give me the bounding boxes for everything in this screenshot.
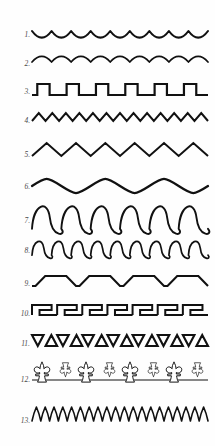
pattern-row-greek-key-meander: 10. [0, 302, 215, 326]
fleur-de-lis-small [104, 363, 115, 377]
row-number-label: 11. [8, 340, 30, 348]
pattern-svg [32, 332, 208, 356]
pattern-stroke [32, 305, 208, 315]
pattern-svg [32, 176, 208, 198]
pattern-stroke [32, 56, 208, 62]
pattern-svg [32, 80, 208, 104]
row-number-label: 7. [8, 217, 30, 225]
row-number-label: 8. [8, 247, 30, 255]
pattern-figure-scalloped-arcs-down [32, 52, 208, 76]
fleur-de-lis-large [166, 362, 182, 382]
pattern-row-interlocking-coils-tall: 7. [0, 206, 215, 236]
pattern-svg [32, 140, 208, 170]
row-number-label: 13. [8, 417, 30, 425]
pattern-stroke [32, 113, 208, 121]
pattern-figure-tight-zigzag [32, 110, 208, 132]
pattern-row-interlocking-coils-flat: 8. [0, 240, 215, 262]
pattern-row-slanted-step-wave: 9. [0, 272, 215, 296]
row-number-label: 12. [8, 376, 30, 384]
pattern-figure-smooth-sine-wave [32, 176, 208, 198]
pattern-figure-fleur-de-lis-band [32, 360, 208, 400]
pattern-svg [32, 52, 208, 76]
fleur-de-lis-small [192, 363, 203, 377]
pattern-svg [32, 206, 208, 236]
fleur-de-lis-large [34, 362, 50, 382]
pattern-row-dense-flared-zigzag: 13. [0, 404, 215, 438]
pattern-stroke [32, 276, 208, 286]
pattern-figure-interlocking-coils-tall [32, 206, 208, 236]
row-number-label: 4. [8, 117, 30, 125]
pattern-row-fleur-de-lis-band: 12. [0, 360, 215, 400]
fleur-de-lis-large [78, 362, 94, 382]
pattern-row-smooth-sine-wave: 6. [0, 176, 215, 198]
pattern-row-tight-zigzag: 4. [0, 110, 215, 132]
pattern-stroke [32, 206, 209, 234]
pattern-stroke [32, 179, 208, 193]
row-number-label: 10. [8, 310, 30, 318]
pattern-svg [32, 272, 208, 296]
pattern-figure-greek-key-meander [32, 302, 208, 326]
row-number-label: 1. [8, 31, 30, 39]
pattern-plate: 1.2.3.4.5.6.7.8.9.10.11.12.13. [0, 0, 215, 446]
row-number-label: 2. [8, 60, 30, 68]
pattern-figure-slanted-step-wave [32, 272, 208, 296]
pattern-row-scalloped-arcs-down: 2. [0, 52, 215, 76]
pattern-row-square-wave: 3. [0, 80, 215, 104]
pattern-figure-interlocking-coils-flat [32, 240, 208, 262]
pattern-stroke [32, 143, 208, 156]
pattern-svg [32, 22, 208, 48]
pattern-stroke [32, 335, 208, 346]
pattern-stroke [32, 84, 208, 95]
row-number-label: 3. [8, 88, 30, 96]
pattern-row-scalloped-arcs-up: 1. [0, 22, 215, 48]
row-number-label: 9. [8, 280, 30, 288]
pattern-svg [32, 240, 208, 262]
pattern-stroke [32, 31, 208, 38]
pattern-row-alternating-triangles: 11. [0, 332, 215, 356]
fleur-de-lis-small [148, 363, 159, 377]
fleur-de-lis-small [60, 363, 71, 377]
pattern-svg [32, 110, 208, 132]
pattern-stroke [32, 407, 208, 421]
pattern-figure-wide-zigzag [32, 140, 208, 170]
pattern-svg [32, 302, 208, 326]
row-number-label: 6. [8, 183, 30, 191]
pattern-figure-alternating-triangles [32, 332, 208, 356]
pattern-svg [32, 360, 208, 400]
pattern-row-wide-zigzag: 5. [0, 140, 215, 170]
pattern-figure-square-wave [32, 80, 208, 104]
fleur-de-lis-large [122, 362, 138, 382]
pattern-figure-dense-flared-zigzag [32, 404, 208, 438]
pattern-figure-scalloped-arcs-up [32, 22, 208, 48]
pattern-svg [32, 404, 208, 438]
row-number-label: 5. [8, 151, 30, 159]
pattern-stroke [32, 241, 209, 258]
